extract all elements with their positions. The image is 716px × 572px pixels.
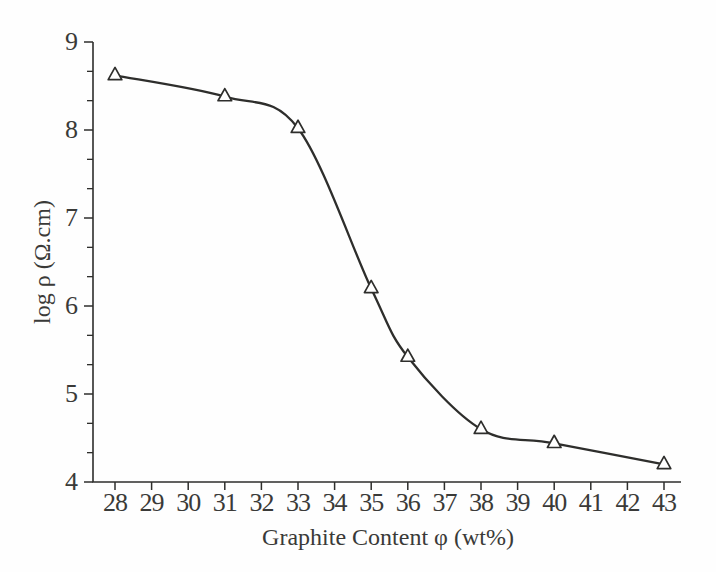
chart-canvas: 45678928293031323334353637383940414243 l… (0, 0, 716, 572)
x-tick-label: 30 (176, 488, 201, 517)
x-tick-label: 31 (213, 488, 237, 517)
data-point-marker (108, 67, 122, 79)
y-tick-label: 8 (65, 115, 78, 144)
y-tick-label: 7 (65, 203, 78, 232)
y-tick-label: 9 (65, 27, 77, 56)
x-tick-label: 41 (579, 488, 603, 517)
x-tick-label: 43 (652, 488, 676, 517)
data-point-marker (364, 280, 378, 292)
y-tick-label: 6 (65, 291, 78, 320)
x-tick-label: 39 (506, 488, 530, 517)
x-tick-label: 32 (249, 488, 273, 517)
y-tick-label: 5 (65, 379, 77, 408)
x-tick-label: 38 (469, 488, 494, 517)
axis-spine (93, 42, 681, 482)
data-curve (115, 75, 664, 464)
x-tick-label: 36 (396, 488, 421, 517)
x-tick-label: 34 (323, 488, 348, 517)
chart-figure: 45678928293031323334353637383940414243 l… (0, 0, 716, 572)
x-tick-label: 29 (140, 488, 164, 517)
x-tick-label: 40 (542, 488, 567, 517)
x-axis-title: Graphite Content φ (wt%) (262, 524, 514, 550)
x-tick-label: 35 (359, 488, 383, 517)
x-tick-label: 28 (103, 488, 128, 517)
plot-area: 45678928293031323334353637383940414243 (65, 27, 681, 517)
x-tick-label: 33 (286, 488, 310, 517)
x-tick-label: 42 (615, 488, 639, 517)
y-axis-title: log ρ (Ω.cm) (29, 200, 55, 324)
y-tick-label: 4 (65, 467, 78, 496)
x-tick-label: 37 (432, 488, 457, 517)
